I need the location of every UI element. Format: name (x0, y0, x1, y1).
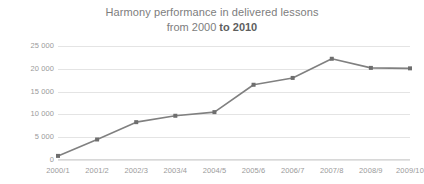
chart-container: Harmony performance in delivered lessons… (0, 0, 424, 184)
y-axis-tick-label: 25 000 (0, 42, 54, 50)
data-point-marker (408, 66, 412, 70)
chart-title-emphasis: to 2010 (219, 21, 257, 33)
y-axis-tick-label: 5 000 (0, 133, 54, 141)
x-axis-tick-label: 2005/6 (242, 166, 266, 175)
y-axis-tick-label: 20 000 (0, 65, 54, 73)
y-axis-tick-label: 15 000 (0, 88, 54, 96)
line-series (58, 46, 410, 160)
data-point-marker (212, 110, 216, 114)
data-point-marker (252, 83, 256, 87)
x-axis-tick-label: 2001/2 (85, 166, 109, 175)
x-axis-tick-label: 2008/9 (359, 166, 383, 175)
y-axis-labels: 05 00010 00015 00020 00025 000 (0, 46, 54, 160)
x-axis-tick-label: 2007/8 (320, 166, 344, 175)
y-axis-tick-label: 10 000 (0, 110, 54, 118)
x-axis-tick-label: 2004/5 (203, 166, 227, 175)
chart-title-line-2: from 2000 to 2010 (0, 20, 424, 35)
data-point-marker (56, 154, 60, 158)
gridline (58, 160, 410, 161)
x-axis-tick-label: 2003/4 (164, 166, 188, 175)
x-axis-labels: 2000/12001/22002/32003/42004/52005/62006… (58, 166, 410, 178)
x-axis-tick-label: 2009/10 (396, 166, 424, 175)
y-axis-tick-label: 0 (0, 156, 54, 164)
x-axis-tick-label: 2002/3 (124, 166, 148, 175)
chart-title-line-1: Harmony performance in delivered lessons (0, 5, 424, 20)
series-line (58, 59, 410, 156)
x-axis-tick-label: 2000/1 (46, 166, 70, 175)
data-point-marker (369, 66, 373, 70)
x-axis-tick-label: 2006/7 (281, 166, 305, 175)
data-point-marker (330, 57, 334, 61)
data-point-marker (95, 137, 99, 141)
data-point-marker (291, 76, 295, 80)
plot-area (58, 46, 410, 160)
chart-title-prefix: from 2000 (167, 21, 220, 33)
data-point-marker (173, 114, 177, 118)
data-point-marker (134, 120, 138, 124)
chart-title: Harmony performance in delivered lessons… (0, 5, 424, 35)
